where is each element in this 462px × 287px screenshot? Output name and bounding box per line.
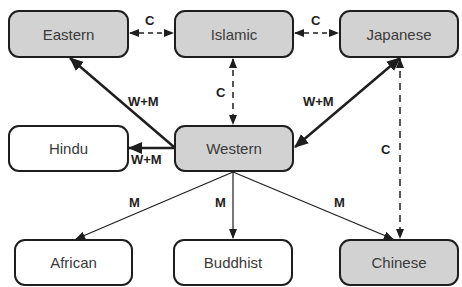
edge-label-western-african: M bbox=[129, 196, 140, 209]
edge-label-western-eastern: W+M bbox=[128, 95, 159, 108]
edge-western-african bbox=[76, 172, 233, 239]
edge-label-japanese-chinese: C bbox=[381, 143, 390, 156]
edge-label-islamic-western: C bbox=[216, 86, 225, 99]
node-african: African bbox=[14, 239, 133, 286]
edge-label-western-hindu: W+M bbox=[131, 153, 162, 166]
edge-western-chinese bbox=[233, 172, 393, 239]
edge-label-western-chinese: M bbox=[334, 196, 345, 209]
node-chinese: Chinese bbox=[339, 239, 459, 286]
edge-label-western-japanese: W+M bbox=[303, 95, 334, 108]
node-hindu: Hindu bbox=[8, 125, 129, 172]
edge-label-islamic-japanese: C bbox=[311, 14, 320, 27]
node-islamic: Islamic bbox=[174, 10, 294, 58]
edge-label-western-buddhist: M bbox=[215, 196, 226, 209]
node-japanese: Japanese bbox=[339, 10, 459, 58]
node-buddhist: Buddhist bbox=[173, 239, 293, 286]
node-eastern: Eastern bbox=[8, 10, 129, 58]
node-western: Western bbox=[174, 125, 294, 172]
edge-label-eastern-islamic: C bbox=[145, 14, 154, 27]
